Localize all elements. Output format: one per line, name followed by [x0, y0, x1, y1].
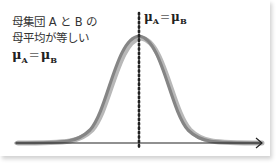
distribution-plot: [0, 0, 279, 167]
